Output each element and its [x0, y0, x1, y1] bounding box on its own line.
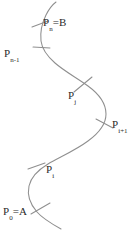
label-p-n-sub: n	[49, 25, 53, 33]
label-p-n: Pn=B	[43, 17, 66, 31]
curve-partition-figure: Pn=B Pn-1 Pj Pi+1 Pi P0=A	[0, 0, 136, 231]
label-p-j: Pj	[68, 90, 76, 104]
label-p-n-minus-1-sub: n-1	[10, 56, 19, 64]
tick-mark-p-n-minus-1	[33, 47, 50, 48]
label-p-i: Pi	[46, 164, 54, 178]
label-p-n-eq: =B	[53, 16, 67, 28]
curve-diagram-svg	[0, 0, 136, 231]
label-p-0-sub: 0	[9, 214, 13, 222]
label-p-0: P0=A	[3, 206, 27, 220]
label-p-i-plus-1: Pi+1	[112, 119, 128, 133]
label-p-j-sub: j	[74, 98, 76, 106]
label-p-i-sub: i	[52, 172, 54, 180]
serpentine-curve	[28, 2, 106, 229]
label-p-i-plus-1-sub: i+1	[118, 127, 127, 135]
label-p-0-eq: =A	[13, 205, 27, 217]
tick-mark-p-j	[74, 77, 92, 92]
label-p-n-minus-1: Pn-1	[4, 48, 20, 62]
